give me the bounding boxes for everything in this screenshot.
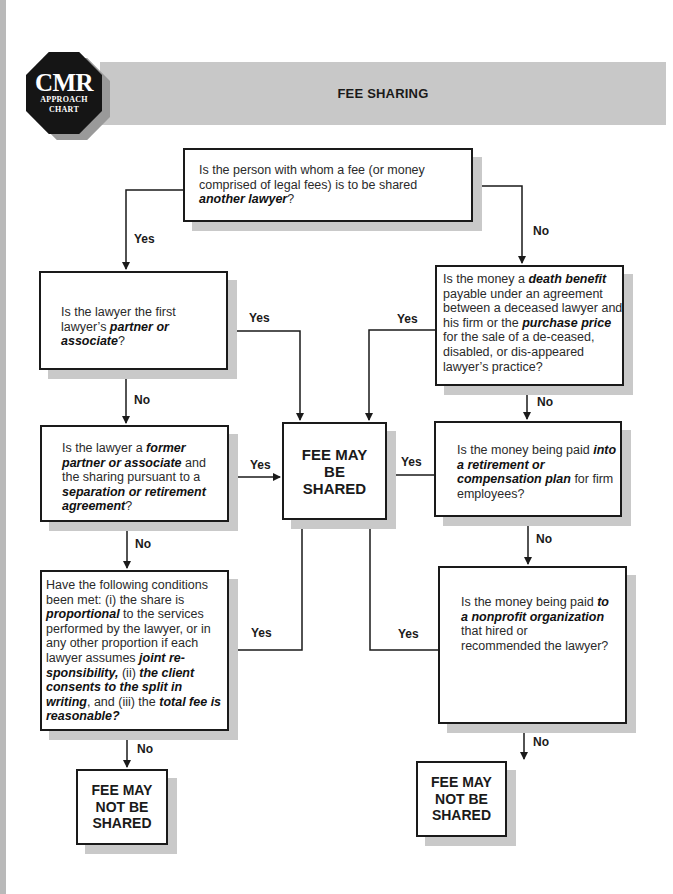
label-partner-no: No	[134, 393, 150, 407]
question-text: Is the money being paid into a retiremen…	[457, 443, 617, 501]
edge-top-no	[472, 186, 522, 263]
terminal-line: BE	[302, 463, 367, 480]
label-retire-no: No	[536, 532, 552, 546]
terminal-line: FEE MAY	[302, 446, 367, 463]
emphasis-text: to a nonprofit organization	[461, 595, 609, 624]
edge-top-yes	[126, 190, 183, 269]
label-retire-yes: Yes	[401, 455, 422, 469]
terminal-line: SHARED	[431, 807, 492, 824]
emphasis-text: into a retirement or compensation plan	[457, 443, 616, 486]
question-retirement-plan: Is the money being paid into a retiremen…	[434, 421, 622, 517]
label-death-yes: Yes	[397, 312, 418, 326]
terminal-fee-may-be-shared: FEE MAY BE SHARED	[282, 422, 387, 520]
label-nonprofit-no: No	[533, 735, 549, 749]
emphasis-text: proportional	[46, 607, 120, 621]
question-text: Have the following conditions been met: …	[46, 578, 226, 724]
terminal-line: NOT BE	[431, 791, 492, 808]
edge-partner-yes	[227, 331, 300, 420]
terminal-line: SHARED	[92, 815, 153, 832]
question-another-lawyer: Is the person with whom a fee (or money …	[183, 148, 473, 222]
question-text: Is the person with whom a fee (or money …	[199, 163, 461, 207]
question-text: Is the money being paid to a nonprofit o…	[461, 595, 611, 653]
terminal-line: NOT BE	[92, 799, 153, 816]
question-death-benefit: Is the money a death benefit payable und…	[435, 265, 624, 386]
label-top-yes: Yes	[134, 232, 155, 246]
label-death-no: No	[537, 395, 553, 409]
edge-death-yes	[369, 330, 435, 420]
label-former-yes: Yes	[250, 458, 271, 472]
question-conditions-met: Have the following conditions been met: …	[40, 570, 229, 731]
terminal-fee-not-shared-right: FEE MAY NOT BE SHARED	[416, 761, 507, 837]
question-former-partner: Is the lawyer a former partner or associ…	[40, 425, 229, 522]
label-conditions-no: No	[137, 742, 153, 756]
question-text: Is the money a death benefit payable und…	[443, 272, 623, 374]
terminal-text: FEE MAY NOT BE SHARED	[92, 782, 153, 832]
label-top-no: No	[533, 224, 549, 238]
terminal-fee-not-shared-left: FEE MAY NOT BE SHARED	[76, 769, 168, 845]
question-text: Is the lawyer a former partner or associ…	[62, 441, 222, 514]
emphasis-text: purchase price	[522, 316, 611, 330]
label-partner-yes: Yes	[249, 311, 270, 325]
label-former-no: No	[135, 537, 151, 551]
terminal-line: FEE MAY	[431, 774, 492, 791]
emphasis-text: separation or retirement agreement	[62, 485, 206, 514]
label-conditions-yes: Yes	[251, 626, 272, 640]
emphasis-text: death benefit	[528, 272, 606, 286]
question-partner-or-associate: Is the lawyer the first lawyer’s partner…	[39, 271, 228, 370]
label-nonprofit-yes: Yes	[398, 627, 419, 641]
terminal-line: FEE MAY	[92, 782, 153, 799]
terminal-text: FEE MAY BE SHARED	[302, 446, 367, 497]
terminal-line: SHARED	[302, 480, 367, 497]
emphasis-text: another lawyer	[199, 192, 287, 206]
question-text: Is the lawyer the first lawyer’s partner…	[61, 305, 211, 349]
question-nonprofit: Is the money being paid to a nonprofit o…	[438, 566, 627, 724]
emphasis-text: partner or associate	[61, 320, 169, 349]
emphasis-text: former partner or associate	[62, 441, 186, 470]
terminal-text: FEE MAY NOT BE SHARED	[431, 774, 492, 824]
